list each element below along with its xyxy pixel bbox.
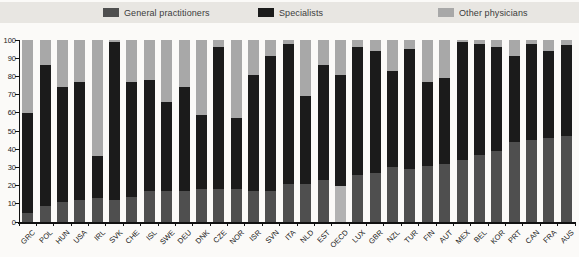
y-axis <box>19 40 20 222</box>
bar-segment-general-practitioners-NOR <box>231 189 242 222</box>
bar-segment-specialists-FRA <box>543 51 554 138</box>
x-tick-label-BEL: BEL <box>472 228 488 244</box>
bar-segment-specialists-TUR <box>404 49 415 169</box>
bar-segment-general-practitioners-PRT <box>509 142 520 222</box>
bar-segment-specialists-ITA <box>283 44 294 184</box>
bar-segment-specialists-SVN <box>265 56 276 191</box>
bar-segment-other-physicians-ITA <box>283 40 294 44</box>
bar-segment-other-physicians-USA <box>74 40 85 82</box>
bar-segment-other-physicians-IRL <box>92 40 103 156</box>
bar-segment-general-practitioners-AUS <box>561 136 572 222</box>
bar-segment-specialists-DEU <box>179 87 190 191</box>
bar-segment-other-physicians-LUX <box>352 40 363 47</box>
bar-segment-other-physicians-NLD <box>300 40 311 96</box>
bar-segment-general-practitioners-DNK <box>196 189 207 222</box>
bar-segment-specialists-CZE <box>213 47 224 189</box>
x-axis <box>18 222 576 224</box>
bar-segment-general-practitioners-AUT <box>439 164 450 222</box>
bar-segment-other-physicians-ISL <box>144 40 155 80</box>
bar-segment-specialists-IRL <box>92 156 103 198</box>
bar-segment-other-physicians-CHE <box>126 40 137 82</box>
bar-segment-general-practitioners-NZL <box>387 167 398 222</box>
bar-segment-specialists-LUX <box>352 47 363 174</box>
bar-segment-other-physicians-AUT <box>439 40 450 78</box>
x-tick-label-CHE: CHE <box>124 228 142 246</box>
bar-segment-general-practitioners-FIN <box>422 166 433 222</box>
x-tick-label-ISR: ISR <box>248 228 263 243</box>
x-tick-label-GRC: GRC <box>19 228 37 246</box>
bar-segment-general-practitioners-NLD <box>300 184 311 222</box>
bar-segment-other-physicians-CAN <box>526 40 537 44</box>
bar-segment-general-practitioners-CAN <box>526 140 537 222</box>
bar-segment-specialists-PRT <box>509 56 520 142</box>
bar-segment-general-practitioners-IRL <box>92 198 103 222</box>
y-tick-label: 40 <box>0 146 16 153</box>
bar-segment-other-physicians-SVK <box>109 40 120 42</box>
bar-segment-specialists-AUS <box>561 45 572 136</box>
y-tick-label: 50 <box>0 128 16 135</box>
bar-segment-general-practitioners-OECD <box>335 186 346 222</box>
bar-segment-other-physicians-SWE <box>161 40 172 102</box>
bar-segment-general-practitioners-LUX <box>352 175 363 222</box>
x-tick-label-PRT: PRT <box>507 228 524 245</box>
x-tick-label-DEU: DEU <box>176 228 194 246</box>
bar-segment-other-physicians-DNK <box>196 40 207 115</box>
chart-page: General practitioners Specialists Other … <box>0 0 579 257</box>
bar-segment-other-physicians-CZE <box>213 40 224 47</box>
y-tick-label: 70 <box>0 91 16 98</box>
bar-segment-other-physicians-GBR <box>370 40 381 51</box>
y-tick-label: 10 <box>0 200 16 207</box>
bar-segment-specialists-KOR <box>491 47 502 151</box>
bar-segment-general-practitioners-EST <box>318 180 329 222</box>
bar-segment-other-physicians-KOR <box>491 40 502 47</box>
bar-segment-other-physicians-EST <box>318 40 329 65</box>
bar-segment-general-practitioners-HUN <box>57 202 68 222</box>
bar-segment-general-practitioners-SWE <box>161 191 172 222</box>
bar-segment-other-physicians-PRT <box>509 40 520 56</box>
y-tick-label: 100 <box>0 37 16 44</box>
bar-segment-general-practitioners-TUR <box>404 169 415 222</box>
bar-segment-general-practitioners-MEX <box>457 160 468 222</box>
bar-segment-specialists-BEL <box>474 44 485 155</box>
bar-segment-other-physicians-FIN <box>422 40 433 82</box>
bar-segment-specialists-SVK <box>109 42 120 200</box>
bar-segment-general-practitioners-CHE <box>126 197 137 222</box>
bar-segment-specialists-OECD <box>335 75 346 186</box>
bar-segment-general-practitioners-SVK <box>109 200 120 222</box>
bar-segment-specialists-USA <box>74 82 85 200</box>
y-tick-label: 20 <box>0 182 16 189</box>
bar-segment-other-physicians-SVN <box>265 40 276 56</box>
bar-segment-specialists-ISR <box>248 75 259 191</box>
bar-segment-general-practitioners-CZE <box>213 189 224 222</box>
bar-segment-general-practitioners-SVN <box>265 191 276 222</box>
bar-segment-specialists-FIN <box>422 82 433 166</box>
bar-segment-specialists-NLD <box>300 96 311 183</box>
x-tick-label-HUN: HUN <box>54 228 72 246</box>
x-tick-label-SVK: SVK <box>107 228 124 245</box>
bar-segment-specialists-MEX <box>457 42 468 160</box>
x-tick-label-SWE: SWE <box>158 228 176 246</box>
bar-segment-general-practitioners-FRA <box>543 138 554 222</box>
bar-segment-specialists-DNK <box>196 115 207 190</box>
y-tick-label: 30 <box>0 164 16 171</box>
bar-segment-specialists-POL <box>40 65 51 205</box>
x-tick-label-CAN: CAN <box>523 228 541 246</box>
y-tick-label: 60 <box>0 109 16 116</box>
bar-segment-other-physicians-MEX <box>457 40 468 42</box>
bar-segment-other-physicians-ISR <box>248 40 259 75</box>
bar-segment-other-physicians-GRC <box>22 40 33 113</box>
x-tick-label-OECD: OECD <box>328 228 350 250</box>
bar-segment-specialists-NZL <box>387 71 398 167</box>
x-tick-label-AUS: AUS <box>558 228 575 245</box>
bar-segment-general-practitioners-USA <box>74 200 85 222</box>
x-tick-label-FIN: FIN <box>422 228 437 243</box>
y-tick-label: 90 <box>0 55 16 62</box>
x-tick-label-IRL: IRL <box>92 228 107 243</box>
x-tick-label-DNK: DNK <box>193 228 211 246</box>
bar-segment-specialists-HUN <box>57 87 68 202</box>
x-tick-label-NOR: NOR <box>227 228 245 246</box>
x-tick-label-LUX: LUX <box>350 228 367 245</box>
bar-segment-other-physicians-NOR <box>231 40 242 118</box>
bar-segment-specialists-EST <box>318 65 329 180</box>
bar-segment-general-practitioners-ISR <box>248 191 259 222</box>
